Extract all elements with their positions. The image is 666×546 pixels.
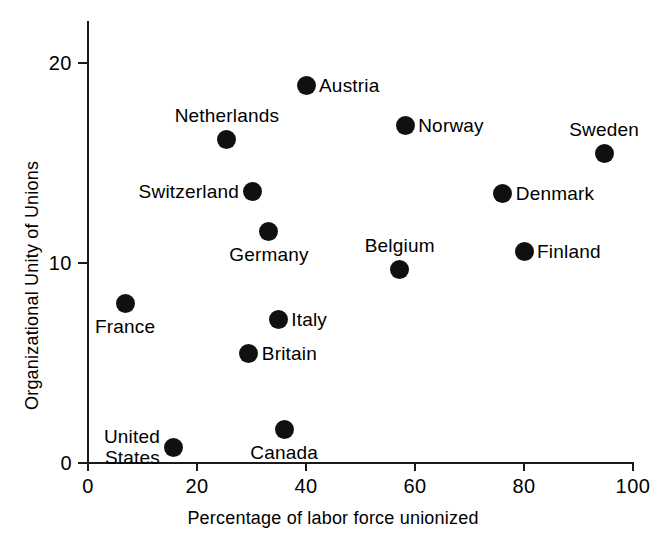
x-axis-tick-label: 60 [385,474,445,498]
x-axis-tick [414,462,416,471]
x-axis-title: Percentage of labor force unionized [0,508,666,529]
data-point [243,182,262,201]
y-axis-tick [78,62,88,64]
x-axis-tick-label: 80 [494,474,554,498]
data-point-label: Canada [250,442,318,463]
data-point [164,438,183,457]
data-point [515,242,534,261]
data-point [116,294,135,313]
data-point [297,76,316,95]
data-point-label: Belgium [365,235,435,256]
data-point [493,184,512,203]
x-axis-tick-label: 100 [603,474,663,498]
data-point [275,420,294,439]
data-point-label: Switzerland [139,181,239,202]
data-point [239,344,258,363]
data-point [595,144,614,163]
y-axis-tick [78,462,88,464]
data-point-label: Sweden [569,119,639,140]
x-axis-tick [523,462,525,471]
data-point-label: Norway [418,115,484,136]
scatter-plot-figure: 02040608010001020 AustriaNorwayNetherlan… [0,0,666,546]
data-point-label: France [95,316,155,337]
y-axis-tick-label: 0 [22,453,72,473]
data-point [217,130,236,149]
y-axis-tick [78,262,88,264]
data-point [396,116,415,135]
data-point-label: Austria [319,75,380,96]
data-point-label: Germany [229,244,309,265]
y-axis-tick-label: 20 [22,53,72,73]
data-point-label: United States [104,426,160,468]
data-point-label: Finland [537,241,601,262]
data-point [390,260,409,279]
x-axis-tick [305,462,307,471]
data-point-label: Britain [262,343,317,364]
data-point-label: Denmark [516,183,594,204]
data-point-label: Italy [291,309,327,330]
data-point-label: Netherlands [175,105,280,126]
y-axis-title: Organizational Unity of Unions [22,161,43,410]
x-axis-tick [196,462,198,471]
x-axis-tick-label: 20 [167,474,227,498]
data-point [269,310,288,329]
x-axis-line [87,462,634,464]
x-axis-tick-label: 40 [276,474,336,498]
x-axis-tick [632,462,634,471]
x-axis-tick-label: 0 [58,474,118,498]
y-axis-line [87,21,89,464]
data-point [259,222,278,241]
